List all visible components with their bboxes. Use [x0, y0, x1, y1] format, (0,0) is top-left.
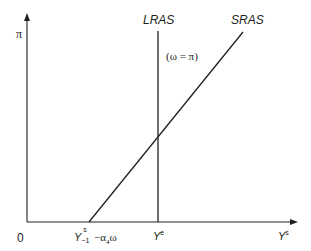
diagram-canvas [0, 0, 311, 251]
sras-intercept-base: Y [74, 231, 81, 243]
equilibrium-output-label: Ye [153, 231, 164, 242]
lras-annotation: (ω = π) [166, 51, 198, 62]
x-axis-label-sup: s [285, 229, 289, 236]
equilibrium-output-sup: e [160, 229, 164, 236]
sras-intercept-label: Ys−1 −α4ω [74, 231, 117, 243]
x-axis-label: Ys [278, 231, 289, 242]
origin-label: 0 [17, 232, 24, 244]
lras-label: LRAS [143, 14, 174, 26]
sras-label: SRAS [231, 14, 264, 26]
y-axis-label: π [16, 28, 22, 40]
sras-intercept-suffix-tail: ω [110, 231, 117, 243]
sras-intercept-suffix: −α [91, 231, 106, 243]
